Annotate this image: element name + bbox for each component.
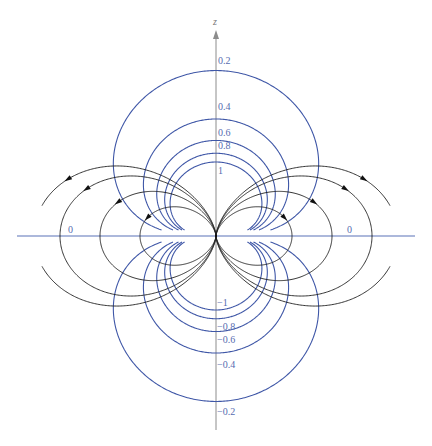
field-line <box>216 166 390 236</box>
field-direction-arrow-icon <box>115 198 122 204</box>
field-direction-arrow-icon <box>65 175 73 181</box>
field-line <box>216 236 372 296</box>
field-direction-arrow-icon <box>360 175 368 181</box>
dipole-field-diagram: z 0.20.40.60.8100−1−0.8−0.6−0.4−0.2 <box>0 0 432 446</box>
axes-group: z <box>17 16 415 430</box>
diagram-canvas: z 0.20.40.60.8100−1−0.8−0.6−0.4−0.2 <box>0 0 432 446</box>
contour-value-label: −0.2 <box>217 406 235 417</box>
contour-value-label: 0.8 <box>218 140 231 151</box>
contour-value-label: 0 <box>68 224 73 235</box>
contour-value-label: 0.4 <box>218 101 231 112</box>
contour-value-label: −1 <box>217 297 228 308</box>
field-line <box>60 236 216 296</box>
contour-value-label: 1 <box>218 165 223 176</box>
contour-value-label: 0.6 <box>218 127 231 138</box>
field-line <box>60 176 216 236</box>
field-direction-arrow-icon <box>341 185 349 191</box>
contour-value-label: −0.6 <box>217 334 235 345</box>
contour-value-label: 0.2 <box>218 55 231 66</box>
field-line <box>42 236 216 306</box>
z-axis-arrowhead-icon <box>213 30 219 39</box>
contour-value-label: 0 <box>347 224 352 235</box>
contour-value-label: −0.8 <box>217 321 235 332</box>
field-line <box>216 236 390 306</box>
contour-value-label: −0.4 <box>217 359 235 370</box>
field-direction-arrow-icon <box>310 198 317 204</box>
z-axis-label: z <box>212 16 217 27</box>
field-direction-arrow-icon <box>83 185 91 191</box>
